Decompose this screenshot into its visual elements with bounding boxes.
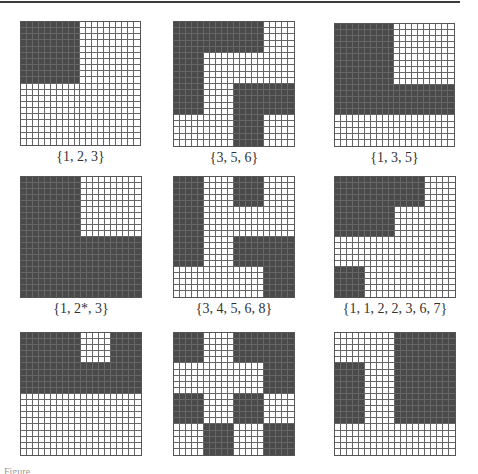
grid-label-4: {1, 2*, 3} bbox=[11, 301, 151, 317]
grid-panel-4 bbox=[20, 176, 142, 298]
grid-label-3: {1, 3, 5} bbox=[325, 150, 465, 166]
top-rule bbox=[0, 1, 460, 3]
grid-panel-2 bbox=[173, 21, 295, 147]
figure-caption: Figure bbox=[4, 466, 30, 474]
grid-panel-1 bbox=[20, 21, 141, 146]
grid-label-5: {3, 4, 5, 6, 8} bbox=[164, 301, 304, 317]
grid-label-1: {1, 2, 3} bbox=[11, 149, 151, 165]
grid-panel-3 bbox=[334, 23, 455, 147]
grid-panel-9 bbox=[334, 332, 456, 456]
grid-panel-8 bbox=[173, 332, 295, 456]
grid-panel-5 bbox=[173, 176, 295, 298]
grid-label-6: {1, 1, 2, 2, 3, 6, 7} bbox=[325, 301, 465, 317]
grid-panel-6 bbox=[334, 176, 456, 298]
grid-label-2: {3, 5, 6} bbox=[164, 150, 304, 166]
grid-panel-7 bbox=[20, 332, 142, 456]
